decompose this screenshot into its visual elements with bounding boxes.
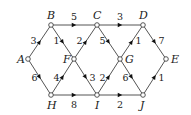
arrow-icon: [72, 23, 77, 27]
edge-weight-label: 2: [77, 35, 83, 46]
node-E: [164, 57, 169, 62]
edge-weight-label: 5: [71, 11, 77, 22]
arrow-icon: [72, 93, 77, 97]
node-label: D: [138, 9, 148, 22]
node-label: E: [170, 53, 179, 66]
edge-weight-label: 8: [71, 99, 77, 110]
edges-layer: [28, 25, 166, 95]
edge-weight-label: 1: [136, 35, 142, 46]
arrow-icon: [118, 23, 123, 27]
node-label: I: [94, 99, 100, 112]
edge-weight-label: 3: [31, 35, 37, 46]
arrow-icon: [105, 39, 109, 44]
edge-weight-label: 2: [117, 99, 123, 110]
graph-diagram: 3651235174326182 ABCDEFGHIJ: [0, 0, 191, 115]
nodes-layer: [26, 23, 169, 98]
edge-weight-label: 2: [100, 72, 106, 83]
arrow-icon: [151, 39, 155, 44]
arrow-icon: [36, 40, 40, 45]
node-I: [95, 93, 100, 98]
edge-weight-label: 6: [32, 72, 38, 83]
node-J: [141, 93, 146, 98]
node-label: J: [138, 99, 145, 112]
edge-weight-label: 7: [159, 35, 165, 46]
node-C: [95, 23, 100, 28]
node-label: A: [16, 53, 25, 66]
edge-weight-label: 4: [54, 72, 60, 83]
edge-weight-label: 3: [117, 11, 123, 22]
node-label: B: [46, 9, 55, 22]
node-B: [49, 23, 54, 28]
node-label: G: [125, 53, 134, 66]
edge-weight-label: 6: [123, 72, 129, 83]
edge-weight-label: 3: [90, 72, 96, 83]
node-label: F: [62, 53, 71, 66]
node-D: [141, 23, 146, 28]
arrow-icon: [59, 39, 63, 44]
node-F: [72, 57, 77, 62]
node-label: C: [93, 9, 102, 22]
edge-weight-label: 1: [159, 72, 165, 83]
node-A: [26, 57, 31, 62]
arrow-icon: [128, 40, 132, 45]
edge-weight-label: 1: [54, 35, 60, 46]
arrow-icon: [82, 40, 86, 45]
node-H: [49, 93, 54, 98]
edge-weight-label: 5: [100, 35, 106, 46]
arrow-icon: [118, 93, 123, 97]
node-label: H: [46, 99, 57, 112]
node-G: [118, 57, 123, 62]
